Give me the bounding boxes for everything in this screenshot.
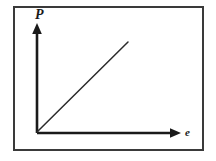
figure-root: P e xyxy=(0,0,216,161)
y-axis-group xyxy=(32,23,42,133)
y-axis-label: P xyxy=(35,8,44,22)
x-axis-group xyxy=(37,128,181,137)
arrow-up-icon xyxy=(32,23,42,34)
arrow-right-icon xyxy=(170,128,181,137)
linear-trend-line xyxy=(37,42,128,132)
data-series-line xyxy=(37,42,128,132)
x-axis-label: e xyxy=(185,127,190,138)
plot-canvas xyxy=(0,0,216,161)
